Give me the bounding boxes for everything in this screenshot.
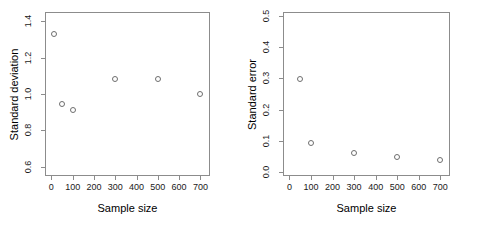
- y-axis-tick-label: 0.6: [23, 152, 33, 182]
- x-axis-tick: [311, 176, 312, 180]
- x-axis-tick: [200, 176, 201, 180]
- y-axis-tick-label: 1.4: [23, 6, 33, 36]
- panel-standard-error: 01002003004005006007000.00.10.20.30.40.5…: [239, 0, 477, 228]
- x-axis-title: Sample size: [283, 202, 450, 215]
- y-axis-tick-label: 0.5: [261, 1, 271, 31]
- x-axis-tick: [354, 176, 355, 180]
- x-axis-tick: [179, 176, 180, 180]
- y-axis-tick: [279, 78, 283, 79]
- data-point: [51, 31, 57, 37]
- data-point: [59, 101, 65, 107]
- x-axis-tick: [397, 176, 398, 180]
- y-axis-tick: [41, 167, 45, 168]
- y-axis-tick: [279, 16, 283, 17]
- x-axis-tick: [51, 176, 52, 180]
- x-axis-tick: [137, 176, 138, 180]
- y-axis-tick-label: 0.4: [261, 32, 271, 62]
- y-axis-tick: [279, 110, 283, 111]
- y-axis-tick-label: 0.1: [261, 126, 271, 156]
- x-axis-tick: [289, 176, 290, 180]
- x-axis-title: Sample size: [45, 202, 210, 215]
- x-axis-tick: [94, 176, 95, 180]
- x-axis-tick: [440, 176, 441, 180]
- x-axis-tick: [376, 176, 377, 180]
- y-axis-title: Standard deviation: [8, 13, 21, 177]
- y-axis-tick-label: 0.3: [261, 63, 271, 93]
- panel-standard-deviation: 01002003004005006007000.60.81.01.21.4 Sa…: [0, 0, 238, 228]
- figure-two-panel-scatter: 01002003004005006007000.60.81.01.21.4 Sa…: [0, 0, 477, 228]
- x-axis-tick: [333, 176, 334, 180]
- y-axis-title: Standard error: [246, 13, 259, 177]
- x-axis-tick: [115, 176, 116, 180]
- y-axis-tick: [279, 47, 283, 48]
- y-axis-tick: [41, 94, 45, 95]
- y-axis-tick: [41, 130, 45, 131]
- y-axis-tick-label: 0.8: [23, 115, 33, 145]
- y-axis-tick-label: 0.0: [261, 157, 271, 187]
- y-axis-tick: [41, 21, 45, 22]
- y-axis-tick: [279, 141, 283, 142]
- x-axis-tick: [73, 176, 74, 180]
- x-axis-tick-label: 700: [183, 182, 217, 192]
- x-axis-tick: [419, 176, 420, 180]
- x-axis-tick-label: 700: [423, 182, 457, 192]
- data-point: [351, 150, 357, 156]
- plot-area-standard-error: [283, 12, 450, 176]
- plot-area-standard-deviation: [45, 12, 210, 176]
- y-axis-tick-label: 1.2: [23, 43, 33, 73]
- y-axis-tick-label: 1.0: [23, 79, 33, 109]
- x-axis-tick: [158, 176, 159, 180]
- y-axis-tick: [41, 58, 45, 59]
- y-axis-tick: [279, 172, 283, 173]
- y-axis-tick-label: 0.2: [261, 95, 271, 125]
